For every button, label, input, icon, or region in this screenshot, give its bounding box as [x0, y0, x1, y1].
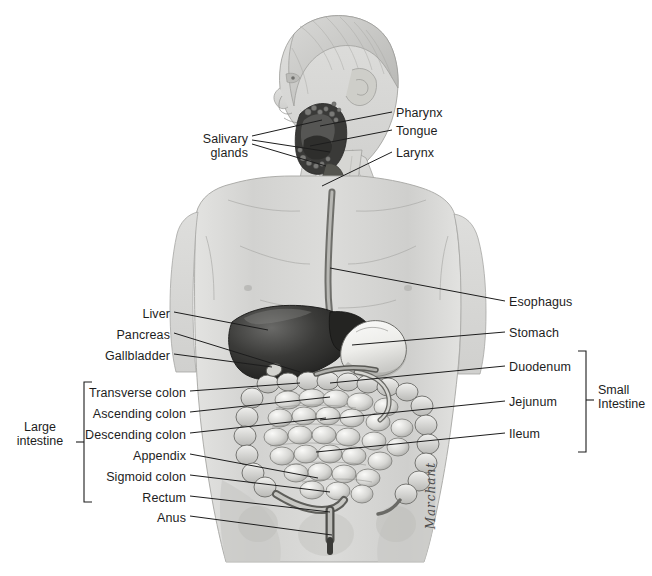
label-transverse-colon: Transverse colon [72, 386, 186, 400]
label-appendix: Appendix [72, 449, 186, 463]
label-descending-colon: Descending colon [68, 428, 186, 442]
label-pharynx: Pharynx [396, 106, 443, 120]
label-duodenum: Duodenum [509, 360, 571, 374]
label-sigmoid-colon: Sigmoid colon [72, 470, 186, 484]
label-jejunum: Jejunum [509, 395, 557, 409]
label-liver: Liver [60, 307, 170, 321]
anatomical-illustration [0, 0, 652, 576]
label-pancreas: Pancreas [60, 328, 170, 342]
group-label-large-intestine: Large intestine [4, 420, 76, 448]
label-ascending-colon: Ascending colon [72, 407, 186, 421]
group-label-small-intestine: Small Intestine [598, 383, 645, 411]
label-tongue: Tongue [396, 124, 438, 138]
label-rectum: Rectum [72, 491, 186, 505]
label-gallbladder: Gallbladder [60, 349, 170, 363]
label-stomach: Stomach [509, 326, 559, 340]
label-esophagus: Esophagus [509, 295, 572, 309]
label-ileum: Ileum [509, 427, 540, 441]
label-larynx: Larynx [396, 146, 434, 160]
label-salivary-glands: Salivary glands [168, 132, 248, 160]
label-anus: Anus [72, 511, 186, 525]
artist-signature: Marchant [424, 462, 438, 529]
digestive-system-figure: Salivary glands Liver Pancreas Gallbladd… [0, 0, 652, 576]
